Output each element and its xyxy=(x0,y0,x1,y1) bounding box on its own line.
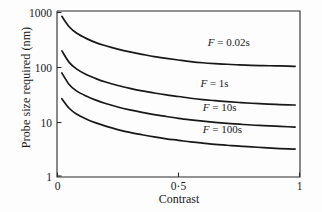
series-label-1: F = 1s xyxy=(199,77,228,89)
y-axis-title: Probe size required (nm) xyxy=(19,18,34,158)
axis-frame xyxy=(57,11,300,177)
x-tick-label-0: 0 xyxy=(55,180,61,192)
x-axis-title: Contrast xyxy=(57,192,301,207)
x-tick-label-0point5: 0·5 xyxy=(171,180,187,192)
data-curves xyxy=(62,16,295,149)
x-tick-label-1: 1 xyxy=(297,180,303,192)
series-label-3: F = 100s xyxy=(202,123,242,135)
y-axis-ticks xyxy=(57,13,62,177)
chart-plot-area: 1000 100 10 1 0 0·5 1 F = 0.02s F = 1s F… xyxy=(0,0,322,212)
x-axis-ticks xyxy=(58,173,300,178)
series-label-0-value: = 0.02s xyxy=(214,36,249,48)
series-label-3-value: = 100s xyxy=(210,123,242,135)
curve-series-2 xyxy=(62,73,295,127)
series-labels: F = 0.02s F = 1s F = 10s F = 100s xyxy=(199,36,249,135)
curve-series-0 xyxy=(62,16,295,66)
series-label-2: F = 10s xyxy=(202,101,237,113)
y-tick-label-1: 1 xyxy=(46,171,52,183)
series-label-2-value: = 10s xyxy=(210,101,237,113)
series-label-1-value: = 1s xyxy=(207,77,228,89)
figure-container: 1000 100 10 1 0 0·5 1 F = 0.02s F = 1s F… xyxy=(0,0,322,212)
series-label-0: F = 0.02s xyxy=(207,36,250,48)
y-tick-label-10: 10 xyxy=(41,117,53,129)
curve-series-3 xyxy=(62,99,295,149)
curve-series-1 xyxy=(62,51,295,105)
y-tick-label-100: 100 xyxy=(35,62,53,74)
